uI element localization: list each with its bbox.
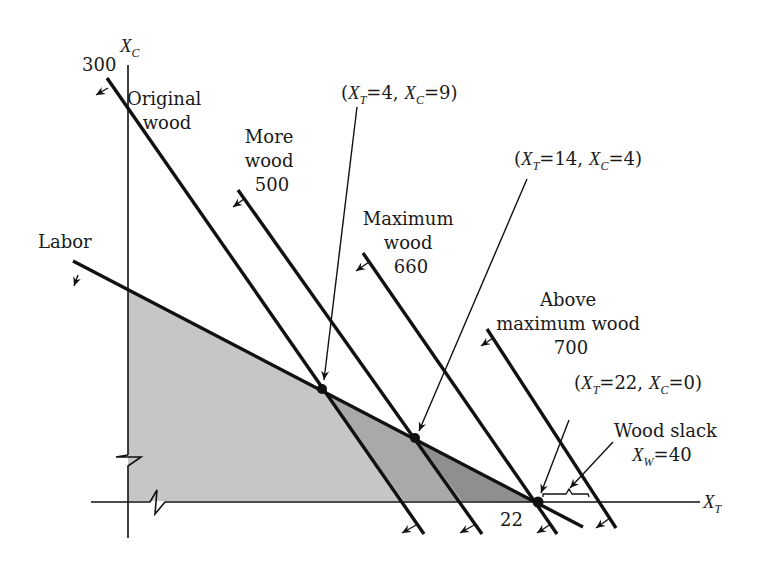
- slack-title: Wood slack: [614, 420, 718, 441]
- y-axis-label: XC: [119, 35, 141, 60]
- pointer-arrow-p1: [324, 107, 357, 380]
- slack-value: XW=40: [631, 444, 692, 469]
- label-above-maximum-wood: Above maximum wood 700: [496, 289, 646, 358]
- lp-diagram: 300 XC XT 22 Labor Original wood More wo…: [0, 0, 764, 570]
- x-tick-22: 22: [500, 509, 523, 530]
- label-labor: Labor: [38, 231, 92, 252]
- label-more-wood: More wood 500: [245, 126, 299, 195]
- x-axis-label: XT: [702, 491, 723, 516]
- point-label-p3: (XT=22, XC=0): [574, 372, 702, 397]
- vertex-dot-p2: [410, 433, 420, 443]
- y-tick-300: 300: [82, 54, 116, 75]
- slack-brace: [543, 489, 589, 497]
- point-label-p1: (XT=4, XC=9): [341, 82, 458, 107]
- vertex-dot-p3: [533, 497, 544, 508]
- feasible-region-original: [128, 290, 404, 501]
- vertex-dot-p1: [317, 384, 327, 394]
- point-label-p2: (XT=14, XC=4): [514, 148, 642, 173]
- label-maximum-wood: Maximum wood 660: [363, 208, 460, 277]
